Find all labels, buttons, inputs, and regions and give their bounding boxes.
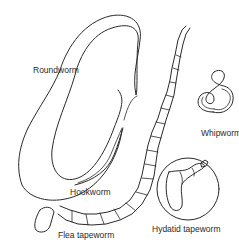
worm-illustration — [0, 0, 239, 252]
roundworm-label: Roundworm — [33, 66, 79, 75]
worm-diagram: Roundworm Whipworm Hookworm Flea tapewor… — [0, 0, 239, 252]
flea-tapeworm-drawing — [35, 26, 190, 232]
whipworm-label: Whipworm — [201, 129, 239, 138]
hydatid-tapeworm-drawing — [157, 158, 219, 220]
flea-tapeworm-label: Flea tapeworm — [58, 231, 114, 240]
hydatid-tapeworm-label: Hydatid tapeworm — [152, 225, 221, 234]
hookworm-label: Hookworm — [70, 188, 111, 197]
whipworm-drawing — [198, 70, 233, 112]
roundworm-drawing — [19, 15, 141, 200]
